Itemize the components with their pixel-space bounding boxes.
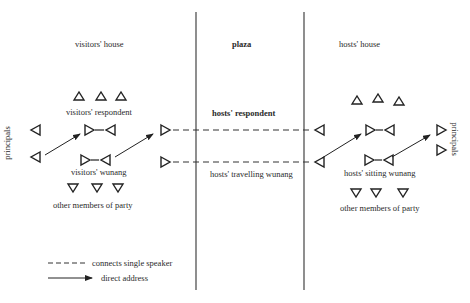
legend-arrow-label: direct address	[101, 274, 148, 283]
person-down-icon	[68, 184, 78, 192]
label-visitors-wunang: visitors' wunang	[71, 168, 127, 177]
region-visitors-house: visitors' house	[75, 40, 124, 49]
label-principals-right: principals	[450, 122, 460, 156]
label-hosts-respondent: hosts' respondent	[212, 109, 275, 118]
principal-right-icon	[437, 145, 446, 155]
person-up-icon	[373, 94, 383, 102]
person-down-icon	[398, 189, 408, 197]
person-up-icon	[116, 92, 126, 100]
seating-diagram: visitors' house plaza hosts' house visit…	[0, 0, 470, 303]
person-left-icon	[106, 125, 115, 135]
person-down-icon	[113, 184, 123, 192]
direct-address-arrow	[392, 135, 430, 157]
person-right-icon	[365, 155, 374, 165]
person-left-icon	[101, 155, 110, 165]
person-up-icon	[352, 96, 362, 104]
person-up-icon	[394, 97, 404, 105]
label-hosts-other-members: other members of party	[340, 204, 420, 213]
person-right-icon	[81, 155, 90, 165]
label-hosts-travelling-wunang: hosts' travelling wunang	[210, 170, 293, 179]
person-right-icon	[85, 125, 94, 135]
person-right-icon	[366, 125, 375, 135]
person-left-icon	[315, 125, 324, 135]
person-right-icon	[161, 157, 170, 167]
person-up-icon	[96, 92, 106, 100]
person-left-icon	[385, 125, 394, 135]
label-visitors-other-members: other members of party	[53, 201, 133, 210]
region-hosts-house: hosts' house	[339, 40, 380, 49]
person-down-icon	[92, 184, 102, 192]
principal-left-icon	[31, 125, 40, 135]
person-right-icon	[161, 125, 170, 135]
person-left-icon	[315, 157, 324, 167]
person-left-icon	[384, 155, 393, 165]
principal-right-icon	[437, 125, 446, 135]
legend-dashed-label: connects single speaker	[92, 259, 172, 268]
label-hosts-sitting-wunang: hosts' sitting wunang	[344, 169, 415, 178]
person-up-icon	[74, 92, 84, 100]
region-plaza: plaza	[232, 40, 251, 49]
person-down-icon	[351, 189, 361, 197]
label-visitors-respondent: visitors' respondent	[66, 108, 132, 117]
direct-address-arrow	[115, 134, 153, 157]
label-principals-left: principals	[2, 126, 12, 160]
direct-address-arrow	[45, 134, 80, 155]
person-down-icon	[371, 189, 381, 197]
direct-address-arrow	[322, 134, 361, 158]
principal-left-icon	[31, 152, 40, 162]
